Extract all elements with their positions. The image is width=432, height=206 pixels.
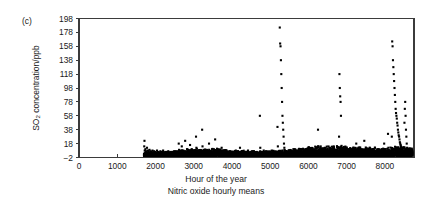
data-point [143, 140, 145, 142]
data-point [281, 87, 283, 89]
data-point [338, 73, 340, 75]
data-point [404, 108, 406, 110]
data-point [318, 146, 320, 148]
data-point [189, 144, 191, 146]
data-point [383, 143, 385, 145]
data-point [320, 145, 322, 147]
x-tick-label: 4000 [223, 161, 242, 171]
data-point [397, 131, 399, 133]
data-point [279, 42, 281, 44]
data-point [398, 136, 400, 138]
data-point [406, 143, 408, 145]
data-point [392, 66, 394, 68]
data-point [282, 129, 284, 131]
data-point [195, 136, 197, 138]
data-point [395, 112, 397, 114]
data-point [283, 143, 285, 145]
y-tick-label: 78 [64, 97, 74, 107]
data-point [355, 143, 357, 145]
data-point [201, 129, 203, 131]
data-point [276, 126, 278, 128]
data-point [339, 95, 341, 97]
data-point [243, 150, 245, 152]
y-tick-label: 138 [59, 55, 73, 65]
data-point [283, 136, 285, 138]
data-point [405, 136, 407, 138]
data-point [392, 45, 394, 47]
data-point [280, 73, 282, 75]
x-tick-label: 0 [77, 161, 82, 171]
data-point [396, 118, 398, 120]
data-point [391, 136, 393, 138]
data-point [391, 40, 393, 42]
data-point [196, 148, 198, 150]
data-point [398, 138, 400, 140]
data-point [395, 108, 397, 110]
data-point [397, 124, 399, 126]
data-point [394, 94, 396, 96]
plot-frame [79, 19, 414, 158]
data-point [411, 152, 413, 154]
data-point [374, 147, 376, 149]
y-tick-label: 98 [64, 83, 74, 93]
data-point [340, 115, 342, 117]
data-point-group [143, 26, 414, 156]
data-point [340, 101, 342, 103]
y-tick-label-group: −21838587898118138158178198 [59, 14, 73, 163]
x-tick-label-group: 010002000300040005000600070008000 [77, 161, 395, 171]
x-tick-label: 2000 [146, 161, 165, 171]
data-point [283, 147, 285, 149]
data-point [341, 145, 343, 147]
data-point [411, 150, 413, 152]
y-tick-label: −2 [63, 153, 73, 163]
data-point [403, 122, 405, 124]
data-point [259, 115, 261, 117]
data-point [394, 101, 396, 103]
y-tick-label: 38 [64, 125, 74, 135]
data-point [395, 115, 397, 117]
data-point [338, 136, 340, 138]
figure-panel-c: (c) SO2 concentration/ppb −2183858789811… [0, 0, 432, 206]
data-point [208, 143, 210, 145]
data-point [396, 122, 398, 124]
plot-subcaption: Nitric oxide hourly means [0, 186, 432, 198]
data-point [339, 87, 341, 89]
data-point [281, 101, 283, 103]
data-point [392, 59, 394, 61]
data-point [214, 138, 216, 140]
x-tick-label: 7000 [337, 161, 356, 171]
y-tick-label: 118 [60, 69, 74, 79]
x-tick-label: 8000 [376, 161, 395, 171]
y-tick-label: 178 [59, 27, 73, 37]
x-tick-label: 6000 [299, 161, 318, 171]
y-tick-label: 158 [59, 41, 73, 51]
y-tick-label: 198 [59, 14, 73, 24]
x-tick-label: 3000 [184, 161, 203, 171]
data-point [201, 145, 203, 147]
data-point [393, 80, 395, 82]
data-point [279, 26, 281, 28]
data-point [282, 149, 284, 151]
data-point [184, 140, 186, 142]
data-point [281, 115, 283, 117]
x-axis-title: Hour of the year [0, 174, 432, 186]
data-point [181, 145, 183, 147]
data-point [259, 147, 261, 149]
data-point [143, 145, 145, 147]
data-point [280, 59, 282, 61]
data-point [393, 73, 395, 75]
x-tick-label: 1000 [108, 161, 127, 171]
data-point [317, 129, 319, 131]
y-tick-label: 18 [64, 139, 74, 149]
data-point [393, 87, 395, 89]
data-point [277, 145, 279, 147]
data-point [404, 101, 406, 103]
x-tick-label: 5000 [261, 161, 280, 171]
data-point [239, 147, 241, 149]
data-point [282, 122, 284, 124]
data-point [354, 147, 356, 149]
caption-block: Hour of the year Nitric oxide hourly mea… [0, 174, 432, 197]
data-point [279, 45, 281, 47]
data-point [384, 148, 386, 150]
data-point [397, 129, 399, 131]
